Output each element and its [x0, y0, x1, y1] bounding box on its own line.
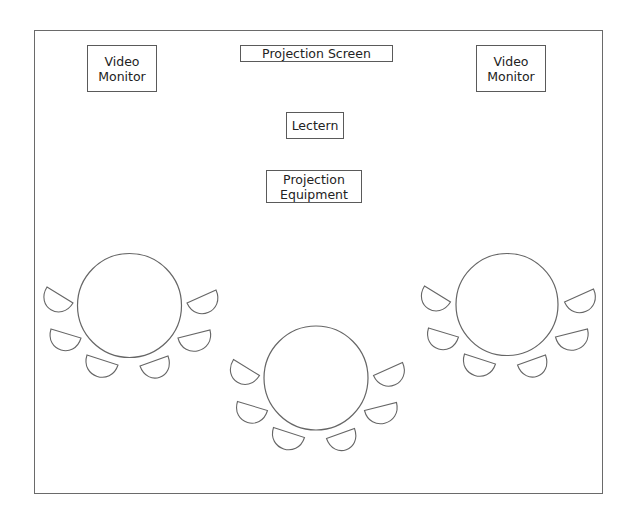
chair-2	[428, 328, 459, 350]
chair-2	[237, 402, 268, 424]
table-left	[44, 254, 218, 379]
tables-and-chairs	[0, 0, 635, 512]
chair-3	[272, 428, 304, 450]
chair-5	[365, 403, 398, 424]
chair-2	[50, 329, 81, 351]
table-right	[421, 254, 595, 378]
chair-6	[187, 290, 218, 314]
chair-1	[230, 360, 259, 385]
round-table	[264, 326, 368, 430]
chair-1	[421, 286, 450, 311]
chair-5	[178, 330, 211, 351]
chair-4	[140, 356, 169, 378]
round-table	[456, 254, 558, 356]
chair-6	[374, 363, 405, 387]
room-layout-diagram: Video Monitor Projection Screen Video Mo…	[0, 0, 635, 512]
chair-6	[565, 289, 596, 313]
table-center	[230, 326, 404, 451]
chair-1	[44, 287, 73, 312]
chair-3	[463, 354, 495, 376]
chair-4	[327, 429, 356, 451]
round-table	[78, 254, 182, 358]
chair-4	[518, 355, 547, 377]
chair-3	[86, 355, 118, 377]
chair-5	[556, 329, 589, 350]
